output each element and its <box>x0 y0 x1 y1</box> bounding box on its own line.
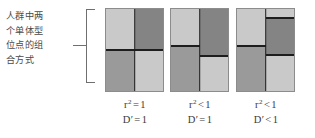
stat-label-1-r2-value: 1 <box>140 99 146 110</box>
haplotype-block-2-right-divider-1 <box>200 55 229 57</box>
haplotype-block-3-left-divider-1 <box>237 45 266 47</box>
haplotype-block-1-right-divider-1 <box>135 49 164 51</box>
haplotype-block-3-right-cell-3 <box>266 55 295 91</box>
stat-label-1-d-symbol: D′ <box>123 114 134 125</box>
haplotype-block-3-column-divider <box>265 9 267 91</box>
haplotype-block-1 <box>105 8 164 92</box>
ld-haplotype-figure: 人群中两 个单体型 位点的组 合方式 r2=1D′=1r2<1D′=1r2<1D… <box>0 0 315 138</box>
haplotype-block-2-right-cell-2 <box>200 56 229 91</box>
stat-label-1-dprime-operator: = <box>133 114 141 125</box>
haplotype-block-1-right-column <box>135 9 164 91</box>
grouping-bracket <box>79 9 95 83</box>
haplotype-block-1-left-cell-1 <box>106 9 135 50</box>
haplotype-block-2-left-cell-2 <box>171 46 200 91</box>
haplotype-block-2-right-column <box>200 9 229 91</box>
stat-label-3-dprime-line: D′<1 <box>226 114 306 125</box>
haplotype-block-3-right-cell-2 <box>266 18 295 55</box>
stat-label-3-d-symbol: D′ <box>254 114 265 125</box>
haplotype-block-3 <box>236 8 295 92</box>
bracket-bottom-arm <box>86 82 95 83</box>
stat-label-1-dprime-value: 1 <box>142 114 148 125</box>
haplotype-block-3-left-cell-2 <box>237 46 266 91</box>
haplotype-block-3-right-column <box>266 9 295 91</box>
haplotype-block-1-left-divider-1 <box>106 49 135 51</box>
haplotype-block-1-left-cell-2 <box>106 50 135 91</box>
stat-label-2-r2-value: 1 <box>205 99 211 110</box>
haplotype-block-3-right-divider-1 <box>266 17 295 19</box>
bracket-top-arm <box>86 9 95 10</box>
haplotype-block-1-column-divider <box>134 9 136 91</box>
haplotype-block-2-left-column <box>171 9 200 91</box>
haplotype-block-1-left-column <box>106 9 135 91</box>
haplotype-block-2-right-cell-1 <box>200 9 229 56</box>
stat-label-2-dprime-operator: = <box>198 114 206 125</box>
haplotype-block-1-right-cell-2 <box>135 50 164 91</box>
haplotype-block-2-column-divider <box>199 9 201 91</box>
haplotype-block-2-left-divider-1 <box>171 45 200 47</box>
stat-label-3-dprime-operator: < <box>264 114 272 125</box>
stat-label-2-dprime-value: 1 <box>207 114 213 125</box>
haplotype-block-2 <box>170 8 229 92</box>
stat-label-3-r2-value: 1 <box>271 99 277 110</box>
stat-label-3-dprime-value: 1 <box>273 114 279 125</box>
haplotype-block-3-left-cell-1 <box>237 9 266 46</box>
bracket-center-tick <box>73 45 86 46</box>
haplotype-block-3-left-column <box>237 9 266 91</box>
bracket-vertical-bar <box>86 9 87 83</box>
stat-label-3-r2-line: r2<1 <box>226 99 306 110</box>
haplotype-block-2-left-cell-1 <box>171 9 200 46</box>
haplotype-block-3-right-divider-2 <box>266 54 295 56</box>
stat-label-1-r2-operator: = <box>132 99 140 110</box>
stat-label-2-d-symbol: D′ <box>188 114 199 125</box>
stat-label-2-r2-operator: < <box>197 99 205 110</box>
figure-caption: 人群中两 个单体型 位点的组 合方式 <box>6 9 74 67</box>
stat-label-3-r2-operator: < <box>263 99 271 110</box>
haplotype-block-1-right-cell-1 <box>135 9 164 50</box>
